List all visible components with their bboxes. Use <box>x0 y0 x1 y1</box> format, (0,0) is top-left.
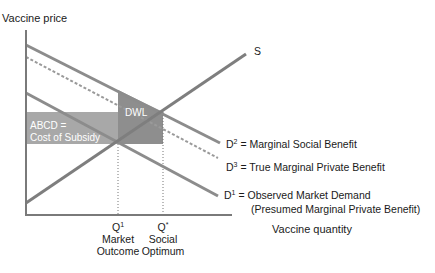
qstar-sup: * <box>166 221 169 228</box>
d1-label: D1 = Observed Market Demand <box>224 189 371 201</box>
qstar-line1: Social <box>138 233 188 245</box>
d3-label: D3 = True Marginal Private Benefit <box>226 161 385 173</box>
supply-label: S <box>254 45 261 57</box>
d3-symbol: D <box>226 161 234 173</box>
y-axis-label: Vaccine price <box>2 12 67 24</box>
q1-sup: 1 <box>120 221 124 228</box>
d1-symbol: D <box>224 189 232 201</box>
dwl-label: DWL <box>125 107 147 119</box>
d2-label: D2 = Marginal Social Benefit <box>226 138 357 150</box>
qstar-line2: Optimum <box>138 245 188 257</box>
d1-text: = Observed Market Demand <box>236 189 371 201</box>
d2-symbol: D <box>226 138 234 150</box>
d1-sublabel: (Presumed Marginal Private Benefit) <box>251 203 420 215</box>
q1-symbol: Q <box>112 221 120 233</box>
subsidy-label-line1: ABCD = <box>30 120 66 132</box>
d3-text: = True Marginal Private Benefit <box>238 161 385 173</box>
q1-line1: Market <box>93 233 143 245</box>
q1-line2: Outcome <box>93 245 143 257</box>
qstar-tick-label: Q* Social Optimum <box>138 221 188 257</box>
qstar-symbol: Q <box>158 221 166 233</box>
d2-text: = Marginal Social Benefit <box>238 138 357 150</box>
q1-tick-label: Q1 Market Outcome <box>93 221 143 257</box>
subsidy-label-line2: Cost of Subsidy <box>30 132 100 144</box>
x-axis-label: Vaccine quantity <box>272 223 352 235</box>
